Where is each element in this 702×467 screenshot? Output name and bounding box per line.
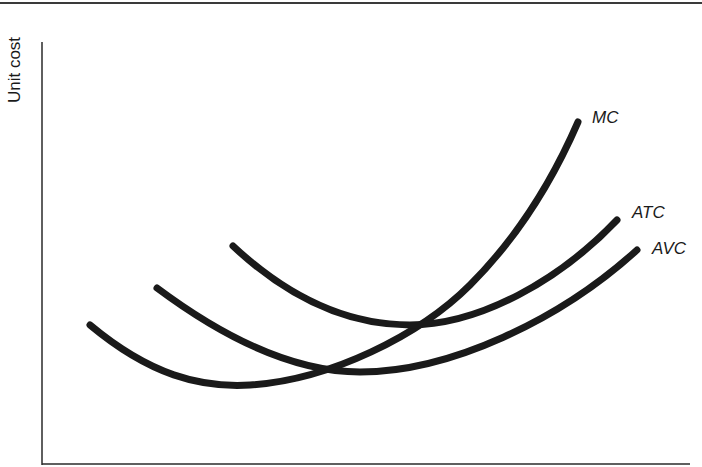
- y-axis-label-text: Unit cost: [5, 37, 25, 103]
- cost-curves-chart: [0, 0, 702, 467]
- mc-curve: [90, 122, 578, 385]
- atc-label: ATC: [632, 203, 665, 223]
- mc-label: MC: [592, 108, 618, 128]
- y-axis-label: Unit cost: [4, 30, 26, 110]
- avc-label: AVC: [652, 239, 686, 259]
